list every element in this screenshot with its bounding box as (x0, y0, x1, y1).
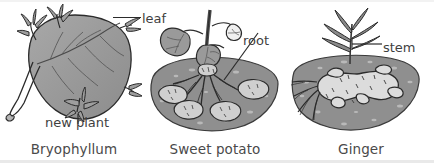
sweet-potato-leaf (160, 28, 203, 56)
annotation-label-stem: stem (383, 40, 416, 55)
petiole-tip (6, 114, 14, 121)
caption-ginger: Ginger (288, 141, 434, 157)
panel-sweet-potato: Sweet potato (140, 2, 290, 163)
panel-bryophyllum: Bryophyllum (0, 2, 148, 163)
leaf-petiole-edge (12, 66, 40, 116)
rhizome-knob (327, 68, 343, 77)
rhizome-knob (356, 94, 369, 104)
rhizome-knob (375, 65, 391, 74)
bryophyllum-illustration (0, 2, 148, 163)
caption-sweet-potato: Sweet potato (140, 141, 290, 157)
annotation-label-root: root (243, 33, 269, 48)
rhizome-knob (331, 97, 345, 108)
annotation-label-new-plant: new plant (45, 115, 109, 130)
tuber (238, 80, 269, 100)
stem-base-underground (198, 64, 217, 76)
tuber (174, 101, 203, 120)
sweet-potato-illustration (140, 2, 290, 163)
leader-line-leaf (113, 17, 141, 18)
bryophyllum-leaf-blade (29, 15, 131, 119)
sweet-potato-flower (212, 23, 242, 40)
annotation-label-leaf: leaf (142, 11, 166, 26)
panel-ginger: Ginger (288, 2, 434, 163)
tuber (210, 102, 241, 122)
caption-bryophyllum: Bryophyllum (0, 141, 148, 157)
plantlet (120, 18, 141, 31)
plant-propagation-figure: Bryophyllum (0, 0, 434, 163)
ginger-illustration (288, 2, 434, 163)
